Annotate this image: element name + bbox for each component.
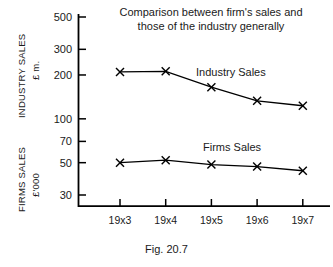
series-label-industry-sales: Industry Sales bbox=[196, 66, 266, 78]
figure-caption: Fig. 20.7 bbox=[0, 243, 333, 255]
x-axis-tick-marks bbox=[120, 199, 303, 206]
data-point-marker-x bbox=[207, 83, 215, 91]
series-line-firms-sales bbox=[116, 156, 307, 175]
chart-figure: Comparison between firm's sales and thos… bbox=[0, 0, 333, 267]
plot-area bbox=[0, 0, 333, 267]
axis-lines bbox=[78, 14, 330, 207]
y-axis-tick-marks bbox=[79, 17, 87, 195]
series-label-firms-sales: Firms Sales bbox=[203, 141, 261, 153]
